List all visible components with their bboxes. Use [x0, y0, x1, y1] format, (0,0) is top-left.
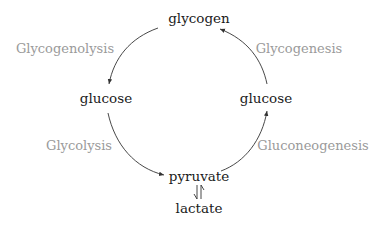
reversible-arrow-icon: [194, 185, 204, 199]
arrow-glycogenesis: [220, 29, 267, 84]
glycogen-glucose-cycle-diagram: glycogen glucose glucose pyruvate lactat…: [0, 0, 387, 227]
label-gluconeogenesis: Gluconeogenesis: [257, 138, 369, 153]
node-glucose-right: glucose: [240, 90, 292, 106]
label-glycogenolysis: Glycogenolysis: [16, 41, 114, 56]
node-lactate: lactate: [176, 200, 223, 216]
label-glycolysis: Glycolysis: [46, 138, 112, 153]
label-glycogenesis: Glycogenesis: [256, 41, 343, 56]
node-pyruvate: pyruvate: [169, 168, 230, 184]
arrow-glycolysis: [108, 113, 164, 175]
arrow-glycogenolysis: [109, 28, 158, 84]
node-glucose-left: glucose: [80, 90, 132, 106]
node-glycogen: glycogen: [168, 10, 230, 26]
